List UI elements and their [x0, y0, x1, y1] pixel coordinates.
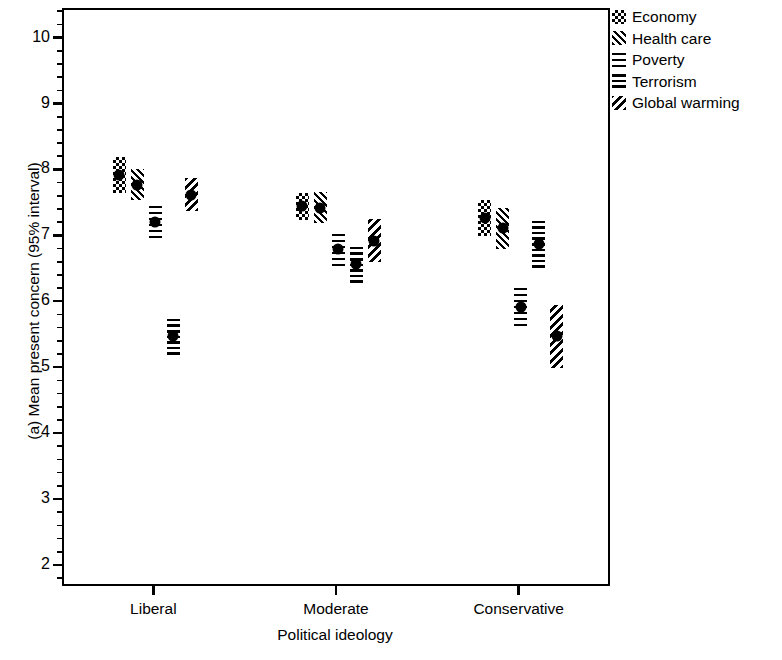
legend-swatch-icon [612, 96, 626, 110]
y-tick-minor [57, 406, 62, 408]
legend-item: Economy [612, 6, 782, 28]
y-tick-minor [57, 116, 62, 118]
y-tick-major [53, 102, 62, 104]
x-tick-label: Liberal [130, 600, 177, 618]
x-tick-major [335, 586, 337, 595]
y-tick-minor [57, 287, 62, 289]
y-tick-major [53, 36, 62, 38]
y-tick-label: 6 [20, 292, 50, 308]
mean-point-marker [515, 301, 526, 312]
legend-item-label: Health care [632, 31, 711, 47]
x-tick-major [152, 586, 154, 595]
mean-point-marker [132, 179, 143, 190]
x-tick-label: Conservative [473, 600, 563, 618]
y-tick-label: 9 [20, 95, 50, 111]
y-tick-minor [57, 393, 62, 395]
y-tick-minor [57, 459, 62, 461]
legend-item: Terrorism [612, 71, 782, 93]
y-tick-minor [57, 551, 62, 553]
mean-point-marker [533, 238, 544, 249]
y-tick-minor [57, 274, 62, 276]
legend-item: Global warming [612, 92, 782, 114]
y-tick-major [53, 498, 62, 500]
legend-item-label: Global warming [632, 95, 740, 111]
plot-area [62, 8, 610, 586]
y-tick-major [53, 366, 62, 368]
mean-point-marker [351, 258, 362, 269]
y-tick-minor [57, 472, 62, 474]
y-tick-minor [57, 511, 62, 513]
y-tick-minor [57, 445, 62, 447]
y-tick-minor [57, 248, 62, 250]
y-tick-major [53, 168, 62, 170]
y-tick-minor [57, 327, 62, 329]
y-tick-major [53, 564, 62, 566]
y-tick-minor [57, 577, 62, 579]
mean-point-marker [333, 244, 344, 255]
y-tick-label: 4 [20, 424, 50, 440]
y-tick-minor [57, 419, 62, 421]
y-tick-minor [57, 142, 62, 144]
x-axis-label: Political ideology [60, 626, 610, 644]
y-tick-major [53, 234, 62, 236]
legend-item-label: Terrorism [632, 74, 697, 90]
legend-swatch-icon [612, 53, 626, 67]
mean-point-marker [369, 235, 380, 246]
y-tick-minor [57, 221, 62, 223]
y-tick-minor [57, 261, 62, 263]
y-tick-label: 7 [20, 226, 50, 242]
y-tick-minor [57, 538, 62, 540]
y-tick-minor [57, 155, 62, 157]
figure: (a) Mean present concern (95% interval) … [0, 0, 782, 660]
x-tick-label: Moderate [303, 600, 368, 618]
mean-point-marker [497, 223, 508, 234]
y-tick-minor [57, 485, 62, 487]
mean-point-marker [150, 216, 161, 227]
legend-item: Poverty [612, 49, 782, 71]
y-tick-minor [57, 129, 62, 131]
mean-point-marker [479, 212, 490, 223]
legend-item-label: Poverty [632, 52, 685, 68]
y-tick-minor [57, 90, 62, 92]
mean-point-marker [186, 189, 197, 200]
y-tick-minor [57, 208, 62, 210]
mean-point-marker [315, 202, 326, 213]
y-tick-label: 2 [20, 556, 50, 572]
y-tick-label: 8 [20, 160, 50, 176]
mean-point-marker [114, 169, 125, 180]
y-tick-major [53, 300, 62, 302]
y-tick-minor [57, 380, 62, 382]
y-tick-label: 5 [20, 358, 50, 374]
y-tick-minor [57, 353, 62, 355]
legend-swatch-icon [612, 31, 626, 45]
y-tick-minor [57, 50, 62, 52]
legend-item-label: Economy [632, 9, 697, 25]
y-tick-minor [57, 24, 62, 26]
legend-item: Health care [612, 28, 782, 50]
mean-point-marker [168, 331, 179, 342]
y-tick-minor [57, 182, 62, 184]
x-tick-major [517, 586, 519, 595]
y-tick-minor [57, 525, 62, 527]
legend-swatch-icon [612, 10, 626, 24]
y-tick-minor [57, 340, 62, 342]
legend: EconomyHealth carePovertyTerrorismGlobal… [612, 6, 782, 114]
y-tick-major [53, 432, 62, 434]
y-tick-minor [57, 10, 62, 12]
y-tick-minor [57, 63, 62, 65]
mean-point-marker [297, 201, 308, 212]
y-tick-label: 10 [20, 29, 50, 45]
y-tick-minor [57, 314, 62, 316]
legend-swatch-icon [612, 74, 626, 88]
y-tick-minor [57, 195, 62, 197]
y-tick-label: 3 [20, 490, 50, 506]
y-tick-minor [57, 76, 62, 78]
mean-point-marker [551, 331, 562, 342]
